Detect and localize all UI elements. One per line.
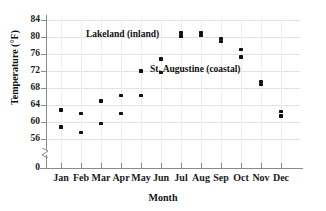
x-tick-jun — [161, 163, 162, 169]
vgridline-dec — [281, 18, 282, 168]
data-point — [239, 48, 242, 51]
y-tick-56 — [41, 139, 47, 140]
x-tick-nov — [261, 163, 262, 169]
x-tick-oct — [241, 163, 242, 169]
x-tick-apr — [121, 163, 122, 169]
vgridline-jan — [61, 18, 62, 168]
data-point — [119, 94, 122, 97]
data-point — [79, 131, 82, 134]
y-tick-64 — [41, 105, 47, 106]
data-point — [119, 112, 122, 115]
plot-area — [47, 18, 300, 168]
data-point — [279, 110, 282, 113]
vgridline-jun — [161, 18, 162, 168]
x-tick-label-dec: Dec — [261, 172, 301, 183]
y-tick-label-80: 80 — [0, 32, 40, 41]
x-tick-jan — [61, 163, 62, 169]
data-point — [159, 57, 162, 60]
data-point — [139, 94, 142, 97]
data-point — [59, 108, 62, 111]
gridline-60 — [47, 122, 300, 123]
x-tick-dec — [281, 163, 282, 169]
x-tick-sep — [221, 163, 222, 169]
x-axis-line — [40, 168, 303, 169]
data-point — [99, 122, 102, 125]
x-tick-may — [141, 163, 142, 169]
y-tick-60 — [41, 122, 47, 123]
data-point — [279, 114, 282, 117]
y-tick-label-72: 72 — [0, 66, 40, 75]
y-tick-label-56: 56 — [0, 134, 40, 143]
axis-break-icon — [41, 148, 53, 158]
data-point — [99, 99, 102, 102]
data-point — [239, 55, 242, 58]
y-tick-76 — [41, 54, 47, 55]
x-axis-title: Month — [0, 192, 326, 203]
data-point — [79, 112, 82, 115]
vgridline-nov — [261, 18, 262, 168]
y-tick-84 — [41, 20, 47, 21]
y-tick-label-0: 0 — [0, 163, 40, 172]
y-tick-68 — [41, 88, 47, 89]
gridline-80 — [47, 37, 300, 38]
vgridline-jul — [181, 18, 182, 168]
gridline-84 — [47, 20, 300, 21]
vgridline-mar — [101, 18, 102, 168]
gridline-64 — [47, 105, 300, 106]
data-point — [59, 125, 62, 128]
y-axis-line — [46, 15, 47, 150]
data-point — [199, 34, 202, 37]
x-tick-mar — [101, 163, 102, 169]
y-tick-label-84: 84 — [0, 15, 40, 24]
vgridline-feb — [81, 18, 82, 168]
y-tick-label-68: 68 — [0, 83, 40, 92]
data-point — [219, 40, 222, 43]
vgridline-aug — [201, 18, 202, 168]
y-tick-80 — [41, 37, 47, 38]
gridline-76 — [47, 54, 300, 55]
gridline-56 — [47, 139, 300, 140]
y-tick-label-60: 60 — [0, 117, 40, 126]
x-tick-jul — [181, 163, 182, 169]
chart-figure: Temperature (°F) — [0, 0, 326, 211]
x-tick-feb — [81, 163, 82, 169]
y-tick-72 — [41, 71, 47, 72]
gridline-68 — [47, 88, 300, 89]
vgridline-oct — [241, 18, 242, 168]
y-tick-label-76: 76 — [0, 49, 40, 58]
data-point — [139, 69, 142, 72]
y-tick-0 — [41, 168, 47, 169]
x-tick-aug — [201, 163, 202, 169]
y-tick-label-64: 64 — [0, 100, 40, 109]
data-point — [179, 34, 182, 37]
data-point — [259, 83, 262, 86]
annotation-lakeland: Lakeland (inland) — [86, 29, 159, 39]
annotation-st-augustine: St. Augustine (coastal) — [150, 64, 241, 74]
